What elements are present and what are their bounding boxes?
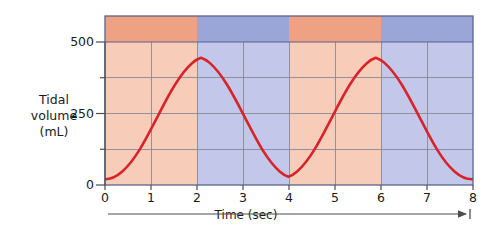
tidal-volume-chart: Tidal volume (mL) 500 250 0 0 1 2 3 4 5 … (0, 0, 495, 232)
time-direction-arrow (108, 209, 470, 219)
y-axis (96, 42, 105, 185)
x-axis (105, 185, 473, 190)
header-band-inhalation-2 (289, 16, 381, 42)
header-band-inhalation-1 (105, 16, 197, 42)
header-band-exhalation-1 (197, 16, 289, 42)
time-arrow-head (458, 210, 467, 218)
phase-band-header (105, 16, 473, 42)
chart-canvas (0, 0, 495, 232)
header-band-exhalation-2 (381, 16, 473, 42)
